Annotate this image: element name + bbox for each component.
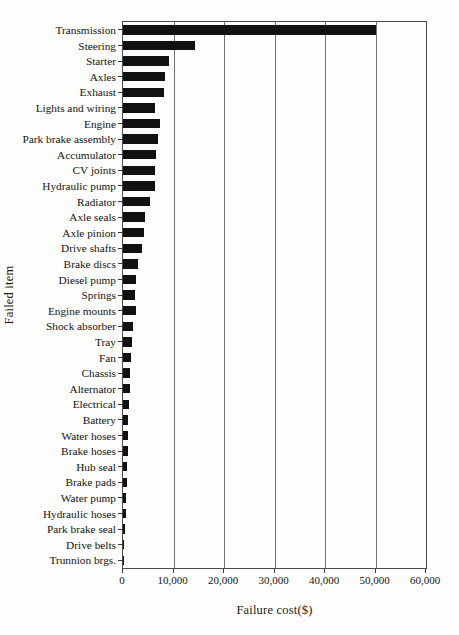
bar	[123, 446, 128, 455]
bar	[123, 197, 150, 206]
bar	[123, 166, 155, 175]
bar-row: Park brake assembly	[123, 131, 426, 147]
category-label: Park brake seal	[0, 521, 116, 537]
category-label: Battery	[0, 412, 116, 428]
bar	[123, 384, 130, 393]
bar-row: CV joints	[123, 162, 426, 178]
x-axis-tick-label: 0	[119, 574, 125, 586]
bar-row: Battery	[123, 412, 426, 428]
category-label: Hub seal	[0, 459, 116, 475]
bar	[123, 290, 135, 299]
category-label: Axles	[0, 69, 116, 85]
category-label: Lights and wiring	[0, 100, 116, 116]
bar-row: Engine	[123, 116, 426, 132]
bar	[123, 322, 133, 331]
category-label: Alternator	[0, 381, 116, 397]
bar	[123, 400, 129, 409]
x-axis-tick-label: 20,000	[208, 574, 238, 586]
bar-row: Accumulator	[123, 147, 426, 163]
category-label: Drive belts	[0, 537, 116, 553]
bar	[123, 353, 131, 362]
bar-row: Lights and wiring	[123, 100, 426, 116]
bar-row: Park brake seal	[123, 521, 426, 537]
bar-row: Springs	[123, 287, 426, 303]
bar-row: Brake discs	[123, 256, 426, 272]
category-label: Steering	[0, 38, 116, 54]
bar	[123, 212, 145, 221]
bar	[123, 368, 130, 377]
bar	[123, 41, 195, 50]
bar-row: Hydraulic hoses	[123, 506, 426, 522]
category-label: Diesel pump	[0, 272, 116, 288]
category-label: Hydraulic hoses	[0, 506, 116, 522]
bar-row: Fan	[123, 350, 426, 366]
category-label: Transmission	[0, 22, 116, 38]
bar-row: Shock absorber	[123, 318, 426, 334]
bar-row: Alternator	[123, 381, 426, 397]
category-label: Engine	[0, 116, 116, 132]
category-label: Chassis	[0, 365, 116, 381]
bar-row: Hub seal	[123, 459, 426, 475]
x-axis-tick	[425, 569, 426, 573]
bar	[123, 509, 126, 518]
x-axis-title: Failure cost($)	[122, 603, 427, 618]
x-axis-tick	[375, 569, 376, 573]
bar-row: Drive shafts	[123, 240, 426, 256]
bar-row: Drive belts	[123, 537, 426, 553]
bar	[123, 72, 165, 81]
bar	[123, 119, 160, 128]
bar	[123, 259, 138, 268]
bar	[123, 103, 155, 112]
plot-area: TransmissionSteeringStarterAxlesExhaustL…	[122, 21, 427, 569]
bar	[123, 462, 127, 471]
bar	[123, 415, 128, 424]
bar-row: Axles	[123, 69, 426, 85]
category-label: Trunnion brgs.	[0, 552, 116, 568]
category-label: Tray	[0, 334, 116, 350]
category-label: CV joints	[0, 162, 116, 178]
category-label: Axle pinion	[0, 225, 116, 241]
x-axis-tick-label: 50,000	[359, 574, 389, 586]
bar-row: Axle seals	[123, 209, 426, 225]
bar-row: Brake hoses	[123, 443, 426, 459]
category-label: Axle seals	[0, 209, 116, 225]
category-label: Drive shafts	[0, 240, 116, 256]
category-label: Electrical	[0, 396, 116, 412]
bar-row: Engine mounts	[123, 303, 426, 319]
category-label: Springs	[0, 287, 116, 303]
bar	[123, 431, 128, 440]
category-label: Water pump	[0, 490, 116, 506]
x-axis-tick	[223, 569, 224, 573]
x-axis-tick-label: 10,000	[157, 574, 187, 586]
category-label: Starter	[0, 53, 116, 69]
bar	[123, 275, 136, 284]
bar-row: Diesel pump	[123, 272, 426, 288]
x-axis-tick-label: 40,000	[309, 574, 339, 586]
category-label: Brake pads	[0, 474, 116, 490]
bar	[123, 88, 164, 97]
bar	[123, 540, 124, 549]
bar-row: Chassis	[123, 365, 426, 381]
bar	[123, 134, 158, 143]
x-axis-tick-label: 60,000	[410, 574, 440, 586]
category-label: Radiator	[0, 194, 116, 210]
bar	[123, 493, 126, 502]
failure-cost-bar-chart: Failed item TransmissionSteeringStarterA…	[0, 0, 459, 635]
bar-row: Electrical	[123, 396, 426, 412]
bar	[123, 478, 127, 487]
category-label: Accumulator	[0, 147, 116, 163]
x-axis-tick	[274, 569, 275, 573]
bar-row: Steering	[123, 38, 426, 54]
x-axis-tick-label: 30,000	[258, 574, 288, 586]
bar-row: Exhaust	[123, 84, 426, 100]
bar	[123, 337, 132, 346]
category-label: Brake discs	[0, 256, 116, 272]
bar-row: Brake pads	[123, 474, 426, 490]
bar-row: Tray	[123, 334, 426, 350]
category-label: Exhaust	[0, 84, 116, 100]
x-axis-tick	[324, 569, 325, 573]
bar-row: Axle pinion	[123, 225, 426, 241]
bar-row: Transmission	[123, 22, 426, 38]
category-label: Water hoses	[0, 428, 116, 444]
bar-rows: TransmissionSteeringStarterAxlesExhaustL…	[123, 22, 426, 568]
